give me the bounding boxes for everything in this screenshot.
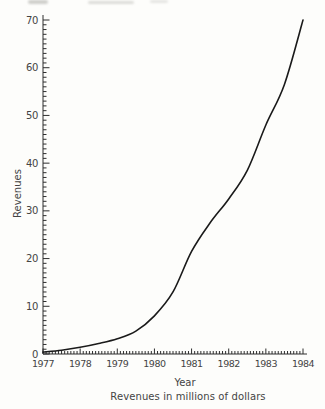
- x-tick-label-1978: 1978: [63, 358, 97, 369]
- x-axis-title: Year: [155, 377, 215, 388]
- x-tick-label-1979: 1979: [100, 358, 134, 369]
- x-tick-label-1977: 1977: [26, 358, 60, 369]
- y-axis-title: Revenues: [12, 164, 23, 224]
- x-tick-label-1982: 1982: [212, 358, 246, 369]
- line-chart-canvas: [0, 0, 325, 409]
- y-tick-label-70: 70: [8, 15, 38, 26]
- x-tick-label-1983: 1983: [249, 358, 283, 369]
- revenue-curve: [43, 20, 303, 352]
- figure-caption: Revenues in millions of dollars: [78, 391, 298, 402]
- y-axis-ticks: [43, 20, 50, 354]
- x-tick-label-1980: 1980: [137, 358, 171, 369]
- x-tick-label-1981: 1981: [175, 358, 209, 369]
- x-axis-ticks: [43, 349, 303, 355]
- y-tick-label-10: 10: [8, 301, 38, 312]
- y-tick-label-60: 60: [8, 62, 38, 73]
- figure-revenue-growth-chart: 0102030405060701977197819791980198119821…: [0, 0, 325, 409]
- x-tick-label-1984: 1984: [286, 358, 320, 369]
- y-tick-label-20: 20: [8, 253, 38, 264]
- y-tick-label-50: 50: [8, 110, 38, 121]
